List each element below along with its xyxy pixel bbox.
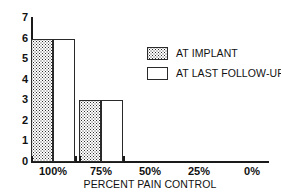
chart-legend: AT IMPLANTAT LAST FOLLOW-UP [147, 44, 281, 84]
bar [101, 100, 123, 162]
x-axis-tick-label: 25% [176, 165, 222, 177]
y-axis-tick-label: 5 [12, 53, 28, 64]
bar [79, 100, 101, 162]
y-axis-tick-label: 3 [12, 94, 28, 105]
legend-item: AT LAST FOLLOW-UP [147, 64, 281, 82]
y-axis-tick-label: 7 [12, 12, 28, 23]
bar-chart: 01234567 100%75%50%25%0% PERCENT PAIN CO… [0, 0, 281, 194]
x-axis-tick-mark [75, 156, 77, 162]
x-axis-tick-label: 75% [78, 165, 124, 177]
y-axis-tick-label: 6 [12, 33, 28, 44]
y-axis-tick-label: 2 [12, 115, 28, 126]
x-axis-tick-mark [31, 156, 33, 162]
y-axis-tick-label: 0 [12, 156, 28, 167]
y-axis-tick-label: 1 [12, 135, 28, 146]
plot-area [32, 16, 269, 162]
legend-item: AT IMPLANT [147, 44, 281, 62]
y-axis-tick-labels: 01234567 [8, 0, 28, 194]
x-axis-tick-mark [79, 156, 81, 162]
x-axis-tick-label: 100% [30, 165, 76, 177]
bar [31, 39, 53, 162]
legend-swatch [147, 67, 168, 80]
legend-swatch [147, 47, 168, 60]
y-axis-tick-label: 4 [12, 74, 28, 85]
x-axis-title: PERCENT PAIN CONTROL [31, 178, 269, 190]
x-axis-tick-label: 0% [229, 165, 275, 177]
bar [53, 39, 75, 162]
x-axis-tick-mark [123, 156, 125, 162]
legend-label: AT IMPLANT [176, 47, 238, 59]
legend-label: AT LAST FOLLOW-UP [176, 67, 281, 79]
x-axis-tick-label: 50% [127, 165, 173, 177]
